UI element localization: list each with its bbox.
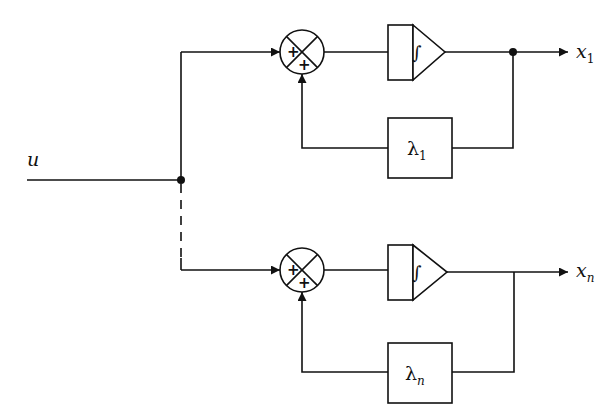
branch-n: + + ∫ xn λn bbox=[181, 245, 594, 403]
gain-box bbox=[388, 343, 452, 403]
branch-1-summing-junction: + + bbox=[280, 30, 324, 74]
integral-sign-icon: ∫ bbox=[412, 42, 422, 63]
integral-sign-icon: ∫ bbox=[412, 262, 422, 283]
integrator-box bbox=[388, 25, 413, 80]
block-diagram: u + + ∫ x1 bbox=[0, 0, 612, 417]
branch-n-integrator: ∫ bbox=[388, 245, 447, 300]
branch-n-summing-junction: + + bbox=[280, 248, 324, 292]
branch-1-integrator: ∫ bbox=[388, 25, 445, 80]
branch-1-feedback-takeoff-line bbox=[452, 52, 513, 148]
input-u: u bbox=[27, 148, 185, 184]
branch-1-output-label: x1 bbox=[576, 40, 594, 66]
branch-n-feedback-takeoff-line bbox=[452, 272, 514, 372]
branch-1-feedback-gain: λ1 bbox=[388, 118, 452, 178]
branch-n-feedback-gain: λn bbox=[388, 343, 452, 403]
branch-n-output-label: xn bbox=[576, 259, 594, 285]
branch-n-feedback-return-arrow bbox=[302, 292, 388, 372]
plus-sign-bottom: + bbox=[298, 56, 311, 74]
input-label: u bbox=[27, 148, 39, 170]
gain-box bbox=[388, 118, 452, 178]
branch-1-feedback-return-arrow bbox=[302, 74, 388, 148]
plus-sign-bottom: + bbox=[298, 274, 311, 292]
integrator-box bbox=[388, 245, 413, 300]
branch-1: + + ∫ x1 λ1 bbox=[181, 25, 594, 178]
